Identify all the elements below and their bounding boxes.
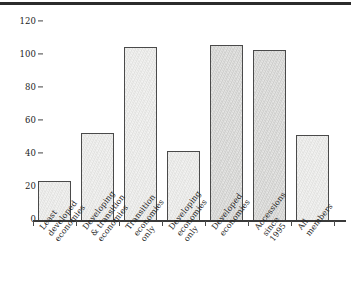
- y-axis-tick-label: 20: [25, 181, 36, 191]
- y-axis-tick-120: 120: [0, 17, 36, 26]
- bar-chart: 120 100 80 60 40 20 0: [0, 0, 351, 290]
- y-axis-tick-100: 100: [0, 50, 36, 59]
- y-axis-tick-20: 20: [0, 182, 36, 191]
- y-axis-tick-label: 80: [25, 82, 36, 92]
- y-axis-tick-40: 40: [0, 149, 36, 158]
- y-axis-tick-label: 120: [19, 16, 36, 26]
- y-axis-tick-0: 0: [0, 215, 36, 224]
- top-rule-divider: [0, 2, 351, 5]
- y-axis-tick-label: 40: [25, 148, 36, 158]
- y-axis-tick-label: 60: [25, 115, 36, 125]
- y-axis-tick-label: 100: [19, 49, 36, 59]
- y-axis-tick-80: 80: [0, 83, 36, 92]
- x-axis-labels: Least developed economies Developing & t…: [0, 226, 351, 290]
- y-axis-tick-60: 60: [0, 116, 36, 125]
